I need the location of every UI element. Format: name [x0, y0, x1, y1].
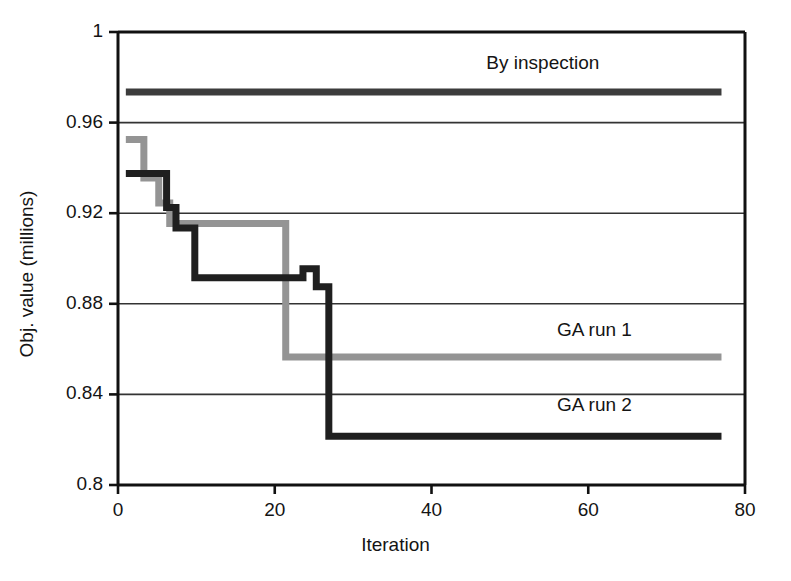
series-group	[126, 92, 722, 436]
axis-frame	[118, 32, 745, 485]
y-tick-label: 0.8	[3, 473, 103, 495]
series-label-2: GA run 1	[557, 319, 632, 341]
series-label-3: GA run 2	[557, 394, 632, 416]
x-tick-label: 0	[78, 499, 158, 521]
y-axis-title: Obj. value (millions)	[16, 124, 38, 424]
x-tick-label: 20	[235, 499, 315, 521]
x-axis-title: Iteration	[0, 534, 791, 556]
chart-plot-area	[0, 0, 791, 581]
x-tick-label: 80	[705, 499, 785, 521]
series-line-2	[126, 140, 722, 357]
series-label-1: By inspection	[486, 52, 599, 74]
x-tick-label: 60	[548, 499, 628, 521]
x-tick-label: 40	[392, 499, 472, 521]
figure-container: 0.80.840.880.920.961 020406080 By inspec…	[0, 0, 791, 581]
axis-ticks	[109, 32, 745, 494]
y-tick-label: 1	[3, 20, 103, 42]
